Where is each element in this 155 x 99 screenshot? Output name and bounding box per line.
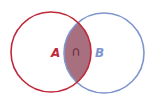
venn-diagram: A ∩ B [0, 0, 155, 99]
set-a-label: A [50, 46, 60, 60]
intersection-symbol: ∩ [71, 44, 81, 59]
set-b-label: B [95, 46, 104, 60]
